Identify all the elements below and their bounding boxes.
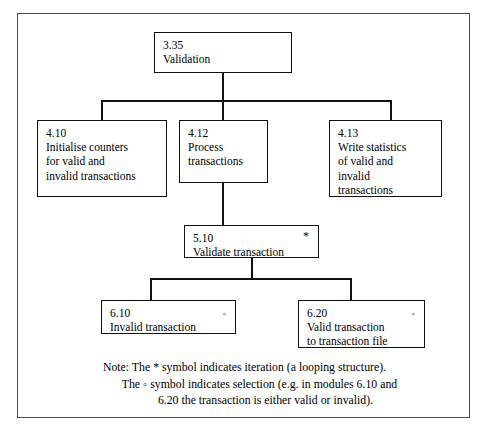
node-3-35[interactable]: 3.35 Validation — [154, 32, 292, 73]
node-4-12[interactable]: 4.12 Process transactions — [179, 120, 268, 183]
node-4-12-label: Process transactions — [188, 140, 267, 168]
node-5-10-id: 5.10 — [193, 231, 318, 245]
iteration-marker-5-10: * — [303, 230, 309, 242]
node-6-20[interactable]: 6.20 Valid transaction to transaction fi… — [298, 300, 425, 348]
node-6-10[interactable]: 6.10 Invalid transaction ◦ — [101, 300, 236, 334]
node-5-10[interactable]: 5.10 Validate transaction * — [184, 225, 319, 258]
connector-drop-4-13 — [390, 100, 392, 120]
connector-drop-6-20 — [350, 278, 352, 300]
node-4-10[interactable]: 4.10 Initialise counters for valid and i… — [37, 120, 167, 197]
node-3-35-id: 3.35 — [163, 38, 291, 52]
node-4-13[interactable]: 4.13 Write statistics of valid and inval… — [329, 120, 442, 197]
node-4-10-id: 4.10 — [46, 126, 166, 140]
node-6-10-label: Invalid transaction — [110, 320, 235, 334]
legend-note-line-3: 6.20 the transaction is either valid or … — [18, 392, 471, 409]
connector-level4-bus — [150, 278, 352, 280]
node-4-10-label: Initialise counters for valid and invali… — [46, 140, 166, 183]
node-4-13-label: Write statistics of valid and invalid tr… — [338, 140, 441, 197]
legend-note-line-1: Note: The * symbol indicates iteration (… — [18, 359, 471, 376]
node-6-10-id: 6.10 — [110, 306, 235, 320]
legend-note-line-2: The ◦ symbol indicates selection (e.g. i… — [18, 376, 471, 393]
structure-chart-frame: 3.35 Validation 4.10 Initialise counters… — [17, 13, 470, 418]
node-4-13-id: 4.13 — [338, 126, 441, 140]
connector-drop-6-10 — [150, 278, 152, 300]
node-6-20-id: 6.20 — [307, 306, 424, 320]
node-4-12-id: 4.12 — [188, 126, 267, 140]
node-6-20-label: Valid transaction to transaction file — [307, 320, 424, 348]
connector-drop-4-10 — [101, 100, 103, 120]
connector-root-stem — [222, 73, 224, 100]
selection-marker-6-10: ◦ — [223, 308, 226, 320]
node-5-10-label: Validate transaction — [193, 245, 318, 259]
connector-level2-bus — [101, 100, 392, 102]
connector-5-10-stem — [251, 258, 253, 278]
legend-note: Note: The * symbol indicates iteration (… — [18, 359, 471, 409]
node-3-35-label: Validation — [163, 52, 291, 66]
connector-4-12-to-5-10 — [222, 183, 224, 225]
connector-drop-4-12 — [222, 100, 224, 120]
selection-marker-6-20: ◦ — [412, 308, 415, 320]
